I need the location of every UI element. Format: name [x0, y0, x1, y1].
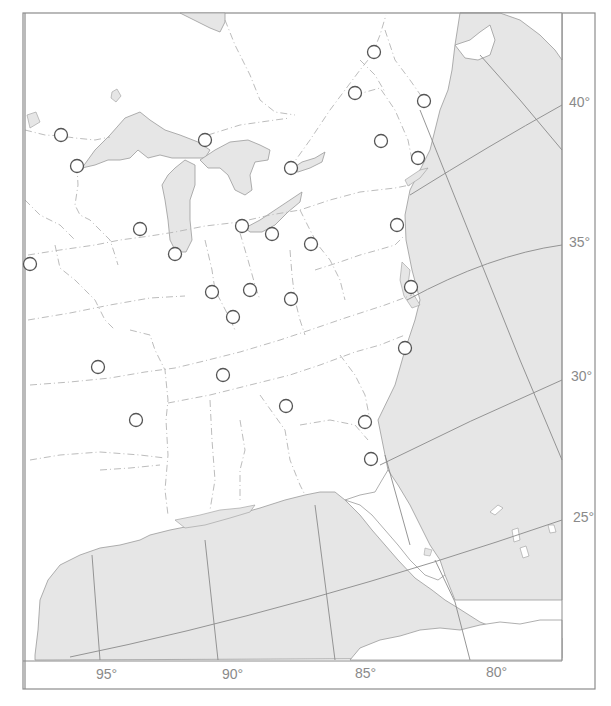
city-marker-circle [405, 281, 418, 294]
city-marker-circle [285, 162, 298, 175]
city-marker-circle [359, 416, 372, 429]
city-marker-circle [391, 219, 404, 232]
city-marker-circle [285, 293, 298, 306]
city-marker-circle [169, 248, 182, 261]
city-marker-circle [206, 286, 219, 299]
longitude-label-95: 95° [96, 667, 117, 681]
map-canvas [0, 0, 611, 706]
city-marker-circle [305, 238, 318, 251]
city-marker-circle [199, 134, 212, 147]
city-marker-circle [368, 46, 381, 59]
city-marker-circle [349, 87, 362, 100]
longitude-label-85: 85° [355, 666, 376, 680]
city-marker-circle [244, 284, 257, 297]
city-marker-circle [266, 228, 279, 241]
latitude-label-25: 25° [573, 510, 594, 524]
city-marker-circle [375, 135, 388, 148]
longitude-label-90: 90° [222, 667, 243, 681]
city-marker-circle [130, 414, 143, 427]
city-marker-circle [217, 369, 230, 382]
city-marker-circle [280, 400, 293, 413]
outline-map: 40° 35° 30° 25° 95° 90° 85° 80° [0, 0, 611, 706]
city-marker-circle [134, 223, 147, 236]
longitude-label-80: 80° [486, 665, 507, 679]
city-marker-circle [365, 453, 378, 466]
latitude-label-30: 30° [571, 369, 592, 383]
city-marker-circle [236, 220, 249, 233]
city-marker-circle [55, 129, 68, 142]
city-marker-circle [418, 95, 431, 108]
latitude-label-40: 40° [569, 95, 590, 109]
city-marker-circle [92, 361, 105, 374]
city-marker-circle [24, 258, 37, 271]
city-marker-circle [71, 160, 84, 173]
city-marker-circle [227, 311, 240, 324]
city-marker-circle [399, 342, 412, 355]
latitude-label-35: 35° [569, 235, 590, 249]
city-marker-circle [412, 152, 425, 165]
